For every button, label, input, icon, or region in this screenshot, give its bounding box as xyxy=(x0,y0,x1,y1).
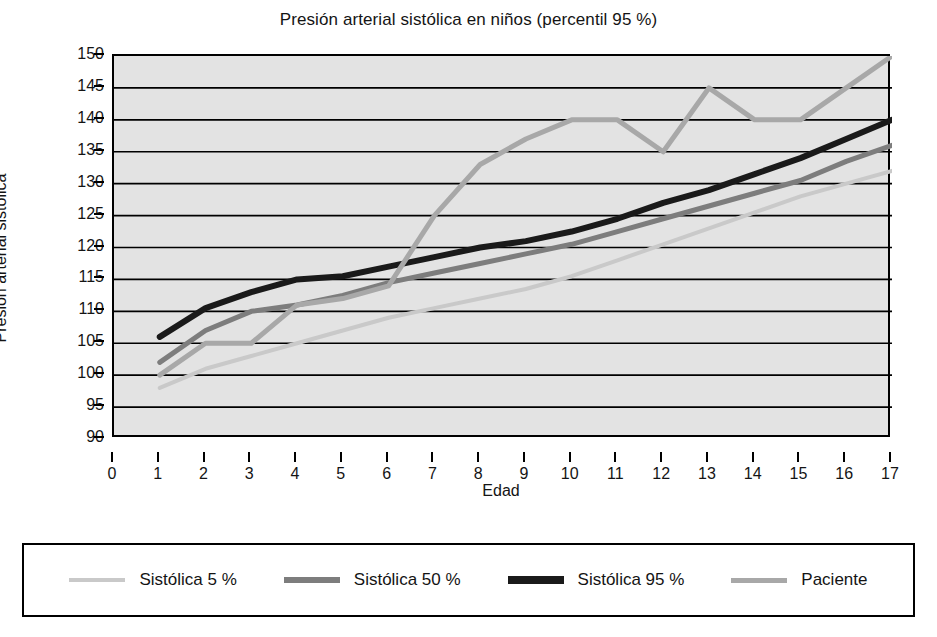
y-tick-mark xyxy=(94,245,104,247)
y-tick-mark xyxy=(94,308,104,310)
legend-item[interactable]: Sistólica 50 % xyxy=(284,570,461,590)
x-tick-label: 15 xyxy=(778,466,818,482)
legend-swatch-icon xyxy=(731,578,787,583)
legend-item-label: Sistólica 95 % xyxy=(578,570,685,590)
y-tick-mark xyxy=(94,340,104,342)
x-tick-label: 17 xyxy=(870,466,910,482)
x-tick-label: 1 xyxy=(138,466,178,482)
x-tick-mark xyxy=(660,452,662,462)
legend-item-label: Paciente xyxy=(801,570,867,590)
x-axis-ticks: 01234567891011121314151617 xyxy=(112,452,890,472)
x-tick-mark xyxy=(614,452,616,462)
y-tick-mark xyxy=(94,85,104,87)
x-tick-mark xyxy=(752,452,754,462)
legend-item[interactable]: Paciente xyxy=(731,570,867,590)
x-tick-label: 13 xyxy=(687,466,727,482)
y-tick-mark xyxy=(94,404,104,406)
x-tick-label: 11 xyxy=(595,466,635,482)
plot-area xyxy=(112,54,890,437)
y-tick-mark xyxy=(94,436,104,438)
legend-items: Sistólica 5 %Sistólica 50 %Sistólica 95 … xyxy=(24,545,913,615)
x-tick-label: 12 xyxy=(641,466,681,482)
x-tick-mark xyxy=(111,452,113,462)
x-tick-mark xyxy=(386,452,388,462)
x-tick-label: 14 xyxy=(733,466,773,482)
x-tick-label: 9 xyxy=(504,466,544,482)
series-canvas xyxy=(114,56,892,439)
y-tick-mark xyxy=(94,53,104,55)
legend-item[interactable]: Sistólica 95 % xyxy=(508,570,685,590)
chart-legend: Sistólica 5 %Sistólica 50 %Sistólica 95 … xyxy=(22,543,915,617)
legend-item-label: Sistólica 5 % xyxy=(139,570,236,590)
x-tick-mark xyxy=(477,452,479,462)
x-tick-mark xyxy=(248,452,250,462)
x-tick-mark xyxy=(157,452,159,462)
legend-swatch-icon xyxy=(508,576,564,584)
legend-swatch-icon xyxy=(284,577,340,583)
chart-page: Presión arterial sistólica en niños (per… xyxy=(0,0,937,637)
x-tick-label: 10 xyxy=(550,466,590,482)
x-tick-mark xyxy=(706,452,708,462)
x-tick-mark xyxy=(203,452,205,462)
x-tick-label: 0 xyxy=(92,466,132,482)
x-axis-label: Edad xyxy=(112,482,890,500)
x-tick-label: 8 xyxy=(458,466,498,482)
x-tick-label: 2 xyxy=(184,466,224,482)
y-tick-mark xyxy=(94,276,104,278)
x-tick-mark xyxy=(843,452,845,462)
x-tick-mark xyxy=(889,452,891,462)
x-tick-mark xyxy=(569,452,571,462)
x-tick-label: 4 xyxy=(275,466,315,482)
x-tick-mark xyxy=(523,452,525,462)
y-tick-mark xyxy=(94,181,104,183)
x-tick-mark xyxy=(797,452,799,462)
y-axis-ticks: 9095100105110115120125130135140145150 xyxy=(46,54,104,437)
legend-item[interactable]: Sistólica 5 % xyxy=(69,570,236,590)
x-tick-label: 7 xyxy=(412,466,452,482)
legend-item-label: Sistólica 50 % xyxy=(354,570,461,590)
x-tick-mark xyxy=(431,452,433,462)
y-tick-mark xyxy=(94,149,104,151)
x-tick-label: 16 xyxy=(824,466,864,482)
y-tick-mark xyxy=(94,372,104,374)
x-tick-label: 3 xyxy=(229,466,269,482)
legend-swatch-icon xyxy=(69,578,125,582)
y-tick-mark xyxy=(94,117,104,119)
chart-figure: Presión arterial sistólica 9095100105110… xyxy=(0,0,937,520)
y-tick-mark xyxy=(94,213,104,215)
x-tick-mark xyxy=(294,452,296,462)
x-tick-label: 6 xyxy=(367,466,407,482)
x-tick-mark xyxy=(340,452,342,462)
x-tick-label: 5 xyxy=(321,466,361,482)
y-axis-label: Presión arterial sistólica xyxy=(0,148,10,368)
